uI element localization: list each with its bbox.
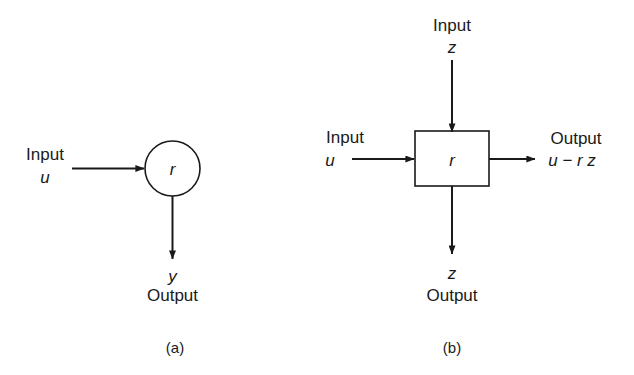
node-label-a: r: [170, 161, 176, 178]
figure-container: Input u r y Output (a) Input z Input u r…: [0, 0, 634, 375]
input-label-a: Input: [26, 146, 64, 163]
panel-tag-a: (a): [166, 340, 184, 355]
input-symbol-a: u: [40, 169, 49, 186]
right-output-label-b: Output: [550, 130, 601, 147]
node-label-b: r: [449, 152, 455, 169]
output-symbol-a: y: [168, 268, 177, 285]
output-label-a: Output: [147, 287, 198, 304]
panel-tag-b: (b): [443, 340, 461, 355]
top-input-label-b: Input: [433, 17, 471, 34]
top-input-symbol-b: z: [448, 39, 457, 56]
bottom-output-symbol-b: z: [448, 265, 457, 282]
bottom-output-label-b: Output: [426, 287, 477, 304]
left-input-symbol-b: u: [325, 152, 334, 169]
diagram-lines-layer: [0, 0, 634, 375]
right-output-expression-b: u − r z: [548, 152, 596, 169]
left-input-label-b: Input: [326, 129, 364, 146]
